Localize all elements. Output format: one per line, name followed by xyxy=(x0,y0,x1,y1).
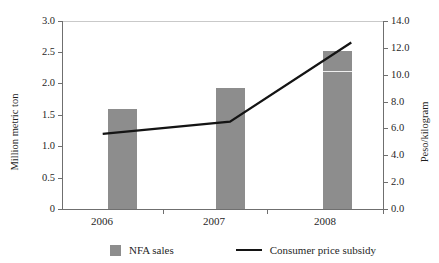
x-tick-label-2008: 2008 xyxy=(314,215,336,227)
right-tick-label-1: 2.0 xyxy=(391,177,404,188)
right-tick-2 xyxy=(384,155,388,156)
line-path xyxy=(103,43,352,134)
x-tick-boundary-3 xyxy=(383,210,384,214)
x-tick-label-2006: 2006 xyxy=(91,215,113,227)
x-tick-boundary-1 xyxy=(163,210,164,214)
consumer-price-subsidy-line xyxy=(62,21,384,210)
right-tick-label-5: 10.0 xyxy=(391,70,409,81)
right-tick-3 xyxy=(384,128,388,129)
chart-figure: Million metric ton Peso/kilogram 0 0.5 1… xyxy=(0,0,439,263)
left-tick-label-5: 2.5 xyxy=(42,47,55,58)
left-tick-label-2: 1.0 xyxy=(42,141,55,152)
left-tick-label-1: 0.5 xyxy=(42,173,55,184)
legend-label-nfa-sales: NFA sales xyxy=(129,244,174,256)
right-tick-7 xyxy=(384,21,388,22)
left-axis-title: Million metric ton xyxy=(9,93,20,170)
right-tick-label-7: 14.0 xyxy=(391,16,409,27)
chart-legend: NFA sales Consumer price subsidy xyxy=(0,240,439,260)
legend-swatch-icon xyxy=(110,245,121,256)
right-tick-6 xyxy=(384,48,388,49)
cropped-caption-remnant xyxy=(0,0,439,5)
right-tick-label-2: 4.0 xyxy=(391,150,404,161)
right-tick-label-4: 8.0 xyxy=(391,97,404,108)
legend-item-nfa-sales: NFA sales xyxy=(110,244,174,256)
right-tick-0 xyxy=(384,209,388,210)
right-tick-4 xyxy=(384,102,388,103)
left-tick-label-6: 3.0 xyxy=(42,16,55,27)
right-tick-label-6: 12.0 xyxy=(391,43,409,54)
x-tick-boundary-2 xyxy=(267,210,268,214)
left-tick-label-4: 2.0 xyxy=(42,78,55,89)
legend-item-consumer-price-subsidy: Consumer price subsidy xyxy=(236,244,376,256)
legend-label-consumer-price-subsidy: Consumer price subsidy xyxy=(270,244,376,256)
left-tick-label-3: 1.5 xyxy=(42,110,55,121)
right-tick-1 xyxy=(384,182,388,183)
legend-line-icon xyxy=(236,249,262,251)
right-tick-label-3: 6.0 xyxy=(391,123,404,134)
right-tick-5 xyxy=(384,75,388,76)
right-axis-title: Peso/kilogram xyxy=(419,101,430,162)
plot-area: 0 0.5 1.0 1.5 2.0 2.5 3.0 0.0 2.0 4.0 6.… xyxy=(62,21,384,210)
x-tick-label-2007: 2007 xyxy=(203,215,225,227)
right-tick-label-0: 0.0 xyxy=(391,204,404,215)
left-tick-label-0: 0 xyxy=(50,204,55,215)
